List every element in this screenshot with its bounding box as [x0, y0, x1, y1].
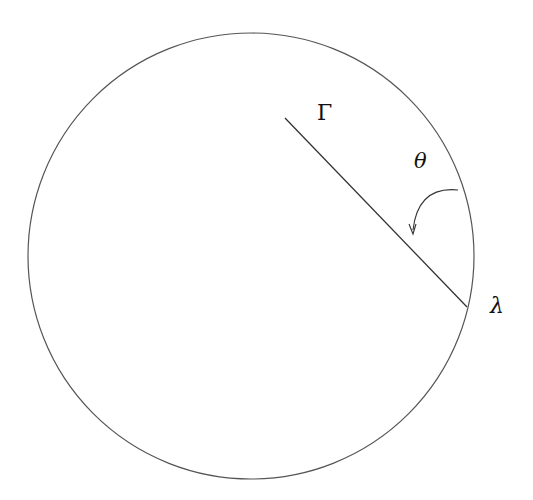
radius-line [285, 118, 467, 307]
lambda-label: λ [489, 293, 504, 318]
arrowhead-icon [409, 224, 416, 234]
angle-arrow-arc [413, 190, 458, 230]
gamma-label: Γ [317, 100, 332, 125]
theta-label: θ [414, 149, 427, 173]
boundary-circle [28, 33, 474, 479]
diagram-canvas: Γ θ λ [0, 0, 533, 500]
